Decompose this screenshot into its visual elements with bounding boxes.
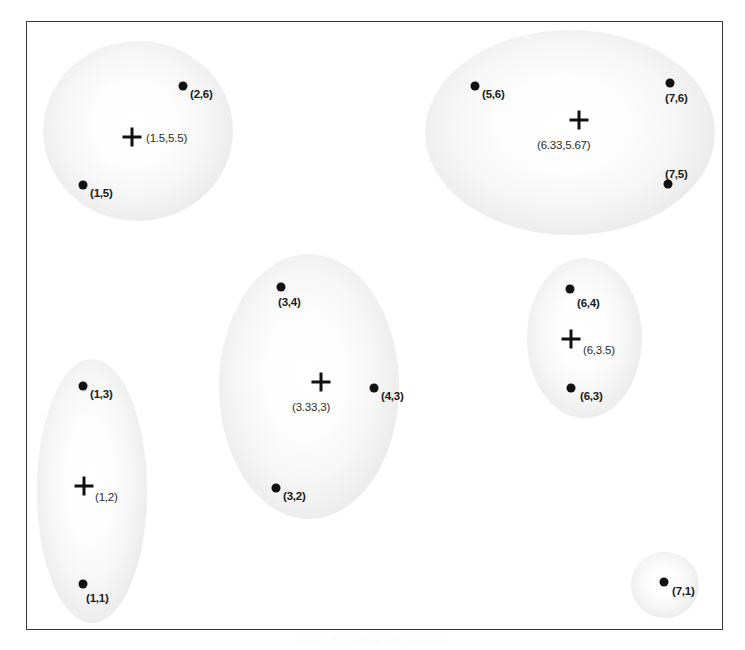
data-point-label: (3,4)	[278, 296, 301, 308]
centroid-marker	[75, 477, 94, 496]
data-point-label: (3,2)	[283, 490, 306, 502]
data-point	[277, 283, 286, 292]
data-point	[471, 82, 480, 91]
data-point	[566, 285, 575, 294]
data-point	[370, 384, 379, 393]
centroid-marker	[562, 330, 581, 349]
data-point-label: (7,5)	[665, 168, 688, 180]
data-point-label: (7,1)	[672, 585, 695, 597]
data-point-label: (1,3)	[90, 388, 113, 400]
data-point-label: (1,5)	[90, 187, 113, 199]
centroid-label: (3.33,3)	[292, 401, 330, 413]
centroid-marker	[123, 128, 142, 147]
centroid-label: (1,2)	[95, 491, 118, 503]
figure-page: (2,6) (1,5) (1.5,5.5) (5,6) (7,6) (7,5) …	[0, 0, 745, 650]
centroid-label: (1.5,5.5)	[146, 132, 187, 144]
figure-caption: Figure 3. Clusters with centroids	[0, 634, 745, 646]
centroid-marker	[312, 373, 331, 392]
data-point-label: (5,6)	[482, 88, 505, 100]
cluster-blob-top-right	[425, 30, 715, 235]
data-point	[666, 79, 675, 88]
data-point	[567, 384, 576, 393]
centroid-marker	[570, 111, 589, 130]
data-point	[79, 181, 88, 190]
data-point	[79, 382, 88, 391]
data-point	[179, 82, 188, 91]
data-point-label: (6,3)	[580, 390, 603, 402]
data-point	[79, 580, 88, 589]
data-point	[664, 180, 673, 189]
data-point-label: (1,1)	[86, 592, 109, 604]
centroid-label: (6,3.5)	[583, 344, 615, 356]
data-point	[272, 484, 281, 493]
data-point-label: (4,3)	[381, 390, 404, 402]
data-point-label: (7,6)	[665, 92, 688, 104]
centroid-label: (6.33,5.67)	[537, 139, 590, 151]
data-point-label: (6,4)	[577, 297, 600, 309]
plot-frame: (2,6) (1,5) (1.5,5.5) (5,6) (7,6) (7,5) …	[26, 21, 723, 630]
data-point	[660, 578, 669, 587]
data-point-label: (2,6)	[190, 88, 213, 100]
